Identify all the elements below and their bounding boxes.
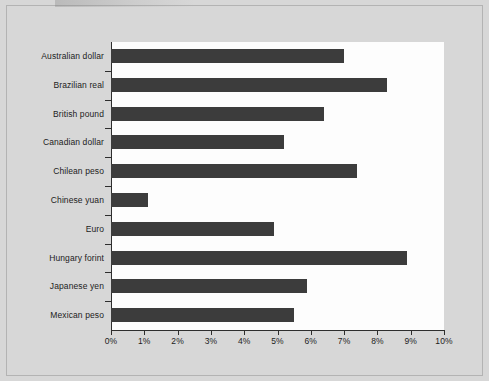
x-axis-tick-label: 8% [371, 336, 384, 346]
category-label: Hungary forint [49, 244, 104, 273]
x-axis-tick-label: 0% [105, 336, 118, 346]
x-axis-tick-label: 3% [205, 336, 218, 346]
category-axis-labels: Australian dollarBrazilian realBritish p… [0, 42, 107, 330]
bar-series [111, 42, 444, 330]
horizontal-bar-chart: Australian dollarBrazilian realBritish p… [0, 0, 489, 381]
category-label: British pound [53, 100, 104, 129]
bar-row [111, 157, 444, 186]
x-axis-tick [178, 330, 179, 335]
value-axis-ticks: 0%1%2%3%4%5%6%7%8%9%10% [111, 330, 445, 354]
bar-row [111, 301, 444, 330]
y-axis-tick [105, 244, 111, 245]
bar [111, 193, 148, 207]
bar [111, 135, 284, 149]
category-label: Brazilian real [53, 71, 104, 100]
category-label: Japanese yen [50, 272, 104, 301]
x-axis-tick-label: 2% [171, 336, 184, 346]
x-axis-tick-label: 7% [338, 336, 351, 346]
x-axis-tick [311, 330, 312, 335]
category-label: Chinese yuan [51, 186, 104, 215]
category-label: Canadian dollar [43, 128, 104, 157]
y-axis-tick [105, 186, 111, 187]
bar-row [111, 71, 444, 100]
bar [111, 49, 344, 63]
x-axis-tick [144, 330, 145, 335]
bar-row [111, 186, 444, 215]
category-label: Australian dollar [41, 42, 104, 71]
bar-row [111, 272, 444, 301]
x-axis-tick-label: 1% [138, 336, 151, 346]
bar-row [111, 100, 444, 129]
y-axis-tick [105, 128, 111, 129]
category-label: Mexican peso [50, 301, 104, 330]
x-axis-tick [377, 330, 378, 335]
bar [111, 164, 357, 178]
x-axis-tick [344, 330, 345, 335]
x-axis-tick [244, 330, 245, 335]
x-axis-tick-label: 9% [404, 336, 417, 346]
chart-page: Australian dollarBrazilian realBritish p… [0, 0, 489, 381]
x-axis-tick-label: 4% [238, 336, 251, 346]
y-axis-tick [105, 71, 111, 72]
category-label: Euro [86, 215, 104, 244]
bar [111, 279, 307, 293]
x-axis-tick-label: 6% [305, 336, 318, 346]
bar-row [111, 128, 444, 157]
bar-row [111, 215, 444, 244]
bar [111, 251, 407, 265]
y-axis-tick [105, 272, 111, 273]
bar [111, 222, 274, 236]
bar-row [111, 42, 444, 71]
bar [111, 308, 294, 322]
x-axis-tick [111, 330, 112, 335]
x-axis-tick-label: 5% [271, 336, 284, 346]
bar-row [111, 244, 444, 273]
x-axis-tick [411, 330, 412, 335]
y-axis-tick [105, 301, 111, 302]
bar [111, 107, 324, 121]
x-axis-tick [278, 330, 279, 335]
x-axis-tick-label: 10% [435, 336, 452, 346]
category-label: Chilean peso [53, 157, 104, 186]
x-axis-tick [444, 330, 445, 335]
y-axis-tick [105, 157, 111, 158]
x-axis-tick [211, 330, 212, 335]
y-axis-tick [105, 215, 111, 216]
y-axis-tick [105, 100, 111, 101]
bar [111, 78, 387, 92]
